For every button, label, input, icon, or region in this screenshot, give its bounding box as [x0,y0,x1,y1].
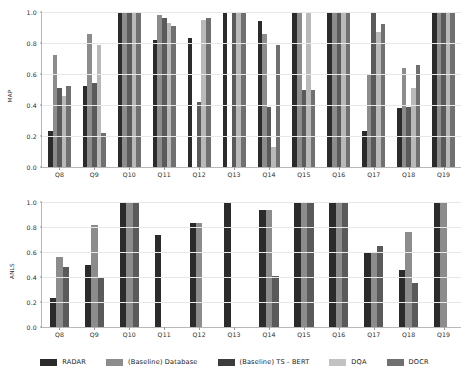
bar-docr-q19 [450,12,455,167]
figure: MAP Q8Q9Q10Q11Q12Q13Q14Q15Q16Q17Q18Q19 0… [0,0,469,384]
x-tick-label-q19: Q19 [437,331,450,338]
x-tick-mark [164,167,165,170]
y-axis-label-map: MAP [7,90,13,103]
legend-label: (Baseline) Database [128,358,198,366]
bar-docr-q16 [346,12,351,167]
y-tick-label: 0.0 [27,164,42,171]
gridline [42,277,461,278]
y-axis-label-anls: ANLS [9,263,15,279]
legend-item-radar[interactable]: RADAR [40,358,86,366]
x-tick-label-q13: Q13 [227,331,240,338]
x-tick-mark [129,167,130,170]
x-tick-mark [304,327,305,330]
bar-baseline-ts-bert-q17 [377,246,383,327]
bar-group: Q10 [112,12,147,167]
bar-group: Q10 [112,202,147,327]
legend-item-baseline-ts-bert[interactable]: (Baseline) TS - BERT [218,358,310,366]
bar-docr-q11 [171,26,176,167]
bar-group: Q18 [391,202,426,327]
x-tick-label-q11: Q11 [158,331,171,338]
x-tick-mark [304,167,305,170]
bar-group: Q8 [42,202,77,327]
x-tick-mark [199,327,200,330]
bar-radar-q12 [188,38,193,167]
x-tick-mark [374,167,375,170]
bar-radar-q13 [223,12,228,167]
bar-group: Q9 [77,12,112,167]
x-tick-label-q17: Q17 [367,171,380,178]
bar-group: Q15 [286,202,321,327]
y-tick-label: 0.8 [27,224,42,231]
bar-group: Q9 [77,202,112,327]
legend-label: RADAR [62,358,86,366]
x-tick-mark [59,327,60,330]
x-tick-label-q9: Q9 [90,171,99,178]
bar-group: Q18 [391,12,426,167]
gridline [42,12,461,13]
legend-label: DQA [351,358,366,366]
x-tick-label-q17: Q17 [367,331,380,338]
bar-baseline-database-q12 [196,223,202,327]
bar-group: Q19 [426,202,461,327]
legend-label: (Baseline) TS - BERT [240,358,310,366]
chart-legend: RADAR(Baseline) Database(Baseline) TS - … [0,358,469,366]
y-tick-label: 0.4 [27,102,42,109]
x-tick-mark [444,167,445,170]
gridline [42,252,461,253]
bar-group: Q16 [321,12,356,167]
bar-group: Q11 [147,12,182,167]
legend-swatch-icon [329,359,346,366]
bar-baseline-ts-bert-q16 [342,202,348,327]
x-tick-mark [199,167,200,170]
x-tick-label-q12: Q12 [193,331,206,338]
x-tick-mark [374,327,375,330]
bar-radar-q13 [224,202,230,327]
x-tick-mark [409,167,410,170]
bar-baseline-ts-bert-q8 [63,267,69,327]
legend-item-docr[interactable]: DOCR [387,358,429,366]
bar-group: Q14 [252,202,287,327]
bar-baseline-database-q19 [440,202,446,327]
x-tick-mark [234,167,235,170]
x-tick-label-q14: Q14 [262,331,275,338]
x-tick-label-q15: Q15 [297,331,310,338]
x-tick-label-q10: Q10 [123,331,136,338]
x-tick-mark [339,327,340,330]
bar-docr-q15 [311,90,316,168]
y-tick-label: 1.0 [27,199,42,206]
bar-group: Q13 [217,202,252,327]
x-tick-mark [269,327,270,330]
bar-docr-q12 [206,18,211,167]
x-tick-label-q16: Q16 [332,171,345,178]
x-tick-label-q12: Q12 [193,171,206,178]
x-tick-mark [339,167,340,170]
bar-group: Q16 [321,202,356,327]
x-tick-label-q9: Q9 [90,331,99,338]
bar-docr-q8 [66,86,71,167]
y-tick-label: 0.2 [27,133,42,140]
x-tick-label-q15: Q15 [297,171,310,178]
bar-docr-q18 [416,65,421,167]
bar-docr-q10 [136,12,141,167]
legend-swatch-icon [106,359,123,366]
legend-label: DOCR [409,358,429,366]
x-tick-label-q18: Q18 [402,331,415,338]
gridline [42,302,461,303]
chart-panel-anls: ANLS Q8Q9Q10Q11Q12Q13Q14Q15Q16Q17Q18Q19 … [0,192,469,350]
legend-swatch-icon [387,359,404,366]
bar-baseline-ts-bert-q18 [412,283,418,327]
chart-panel-map: MAP Q8Q9Q10Q11Q12Q13Q14Q15Q16Q17Q18Q19 0… [0,2,469,190]
x-tick-label-q10: Q10 [123,171,136,178]
y-tick-label: 0.0 [27,324,42,331]
y-tick-label: 0.2 [27,299,42,306]
x-tick-label-q18: Q18 [402,171,415,178]
bar-group: Q8 [42,12,77,167]
x-tick-label-q14: Q14 [262,171,275,178]
bar-baseline-ts-bert-q10 [133,202,139,327]
x-tick-mark [94,327,95,330]
legend-item-baseline-database[interactable]: (Baseline) Database [106,358,198,366]
x-tick-mark [409,327,410,330]
x-tick-mark [129,327,130,330]
gridline [42,105,461,106]
legend-item-dqa[interactable]: DQA [329,358,366,366]
